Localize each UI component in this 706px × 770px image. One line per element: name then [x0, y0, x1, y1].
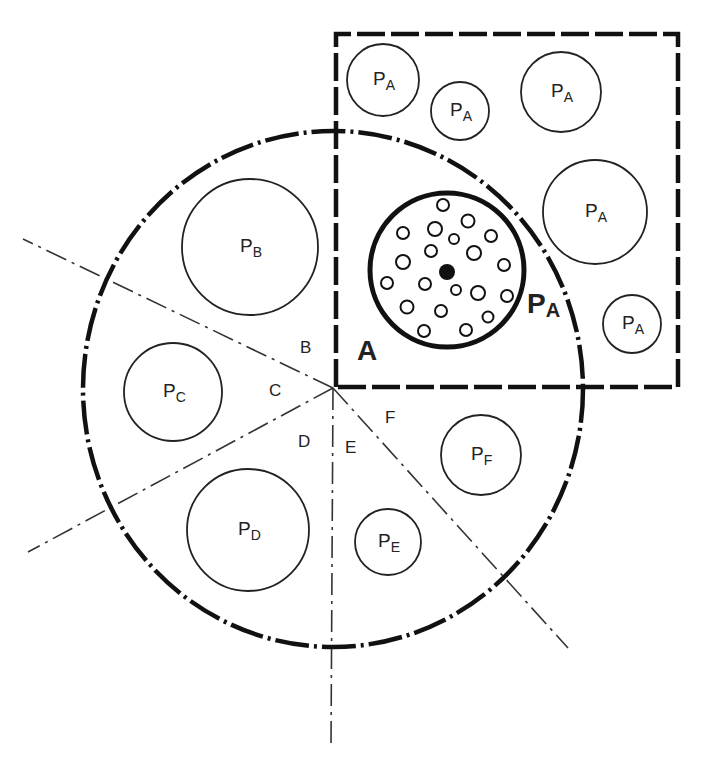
sector-label-d: D	[298, 432, 310, 451]
particle-pc: PC	[124, 343, 222, 441]
particle-pa: PA	[347, 44, 419, 116]
pore-circle	[401, 301, 414, 314]
particle-pa: PA	[603, 295, 661, 353]
pore-circle	[428, 222, 442, 236]
pore-circle	[467, 246, 481, 260]
pore-circle	[435, 305, 447, 317]
boundary-line-de	[331, 388, 333, 745]
particle-pa: PA	[521, 52, 601, 132]
pore-circle	[425, 245, 437, 257]
pore-circle	[397, 227, 409, 239]
pore-circle	[501, 290, 513, 302]
pore-circle	[437, 199, 449, 211]
pore-circle	[471, 286, 485, 300]
highlight-label: PA	[527, 288, 560, 321]
sector-label-c: C	[269, 381, 281, 400]
pore-circle	[396, 255, 410, 269]
pore-circle	[381, 277, 393, 289]
particle-pa: PA	[431, 82, 489, 140]
pore-circle	[460, 324, 472, 336]
particle-pf: PF	[441, 415, 521, 495]
pore-circle	[498, 259, 510, 271]
pore-circle	[419, 278, 431, 290]
particle-pa: PA	[543, 160, 647, 264]
particle-pe: PE	[355, 509, 421, 575]
diagram-canvas: PAPAPAPAPAPBPCPDPEPF PA A BCDEF	[0, 0, 706, 770]
region-a-label: A	[357, 335, 377, 366]
nucleus-dot	[439, 264, 455, 280]
partition-diagram: PAPAPAPAPAPBPCPDPEPF PA A BCDEF	[0, 0, 706, 770]
highlight-particle: PA	[370, 193, 560, 347]
pore-circle	[483, 312, 494, 323]
particle-pb: PB	[182, 179, 318, 315]
pore-circle	[449, 234, 459, 244]
pore-circle	[418, 325, 430, 337]
sector-label-e: E	[345, 438, 356, 457]
particle-pd: PD	[187, 469, 309, 591]
pore-circle	[451, 285, 461, 295]
pore-circle	[462, 215, 475, 228]
sector-label-b: B	[300, 338, 311, 357]
sector-label-f: F	[385, 408, 395, 427]
pore-circle	[485, 230, 497, 242]
